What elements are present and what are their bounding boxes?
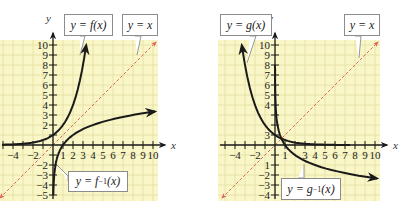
x-tick-label: 7	[120, 149, 126, 161]
x-tick-label: 8	[130, 149, 136, 161]
label-identity-left: y = x	[122, 14, 158, 36]
label-g-inverse-prefix: y = g	[287, 182, 312, 197]
x-tick-label: −2	[249, 149, 261, 161]
x-tick-label: 6	[332, 149, 338, 161]
label-g-inverse-suffix: (x)	[321, 182, 334, 197]
y-tick-label: 4	[265, 99, 271, 111]
y-tick-label: −5	[36, 189, 48, 201]
x-tick-label: 1	[282, 149, 288, 161]
label-identity-right-text: y = x	[350, 18, 375, 33]
label-g-inverse-sup: −1	[313, 185, 322, 194]
label-f-inverse: y = f−1(x)	[68, 171, 128, 192]
label-f-of-x: y = f(x)	[64, 14, 113, 36]
x-tick-label: 10	[148, 149, 160, 161]
y-axis-label: y	[45, 12, 51, 24]
label-identity-right: y = x	[344, 14, 380, 36]
x-tick-label: 9	[362, 149, 368, 161]
x-tick-label: −4	[7, 149, 19, 161]
label-g-of-x: y = g(x)	[220, 14, 272, 36]
x-tick-label: 4	[312, 149, 318, 161]
label-g-text: y = g(x)	[227, 18, 266, 33]
x-tick-label: 4	[90, 149, 96, 161]
x-tick-label: 9	[140, 149, 146, 161]
label-f-inverse-prefix: y = f	[76, 174, 99, 189]
x-tick-label: 1	[60, 149, 66, 161]
label-f-inverse-sup: −1	[98, 177, 107, 186]
x-tick-label: 8	[352, 149, 358, 161]
x-tick-label: 7	[342, 149, 348, 161]
x-tick-label: 3	[80, 149, 86, 161]
label-f-inverse-suffix: (x)	[107, 174, 120, 189]
label-g-inverse: y = g−1(x)	[281, 178, 341, 200]
x-tick-label: 5	[100, 149, 106, 161]
x-tick-label: 10	[370, 149, 382, 161]
x-tick-label: 2	[70, 149, 76, 161]
label-f-text: y = f(x)	[70, 18, 106, 33]
y-tick-label: −4	[258, 189, 270, 201]
y-tick-label: 2	[43, 119, 49, 131]
right-graph-g: xy−4−213456789101098765431−2−3−4	[218, 12, 398, 201]
x-axis-label: x	[170, 139, 176, 151]
x-tick-label: 6	[110, 149, 116, 161]
x-tick-label: −4	[229, 149, 241, 161]
x-axis-label: x	[392, 139, 398, 151]
x-tick-label: 5	[322, 149, 328, 161]
label-identity-left-text: y = x	[128, 18, 153, 33]
chart-canvas: xy−4−2123456789101098765432−2−3−4−5 xy−4…	[0, 0, 402, 214]
